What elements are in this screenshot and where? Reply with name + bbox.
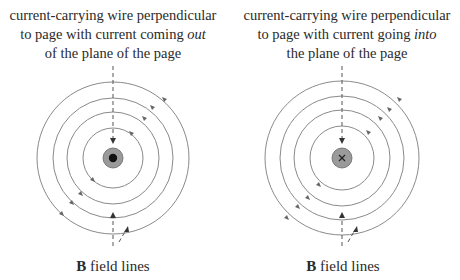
left-label-bold: B (76, 258, 86, 274)
arrow-icon (295, 204, 300, 209)
arrow-icon (142, 116, 147, 121)
left-wire (103, 148, 123, 168)
left-pointer-arrow-bottom (110, 212, 116, 218)
right-field-lines-label: B field lines (283, 258, 403, 275)
arrow-icon (366, 130, 371, 135)
right-wire (332, 148, 352, 168)
current-out-dot-icon (109, 154, 117, 162)
arrow-icon (387, 107, 392, 112)
field-diagram (0, 0, 460, 280)
right-pointer-arrow-bottom (339, 212, 345, 218)
arrow-icon (316, 182, 321, 187)
left-pointer-arrow-top (110, 138, 116, 144)
right-label-bold: B (306, 258, 316, 274)
arrow-icon (397, 97, 402, 102)
right-pointer-arrow-top (339, 138, 345, 144)
right-label-text: field lines (316, 258, 379, 274)
arrow-icon (378, 116, 383, 121)
arrow-icon (162, 97, 167, 102)
left-field-lines-label: B field lines (53, 258, 173, 275)
right-pointer-arrow-diag (353, 226, 358, 232)
arrow-icon (150, 105, 155, 110)
left-pointer-arrow-diag (124, 226, 129, 232)
left-label-text: field lines (86, 258, 149, 274)
arrow-icon (284, 215, 289, 220)
arrow-icon (305, 195, 310, 200)
